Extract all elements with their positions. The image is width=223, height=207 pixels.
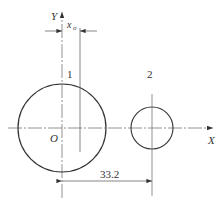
diagram: Y X O x o 1 2 33.2 bbox=[0, 0, 223, 207]
circle-1-label: 1 bbox=[67, 68, 73, 80]
origin-label: O bbox=[50, 132, 58, 144]
x-axis-label: X bbox=[207, 134, 216, 146]
y-axis-label: Y bbox=[51, 10, 59, 22]
x0-label: x bbox=[66, 19, 72, 30]
x0-sub-label: o bbox=[73, 24, 77, 32]
circle-2-label: 2 bbox=[147, 68, 153, 80]
dimension-label: 33.2 bbox=[100, 168, 119, 180]
diagram-svg: Y X O x o 1 2 33.2 bbox=[0, 0, 223, 207]
